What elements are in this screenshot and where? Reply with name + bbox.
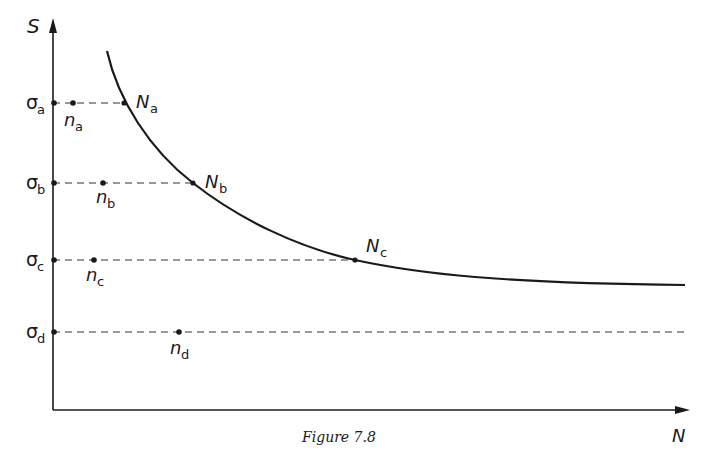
N-point-b: [190, 180, 195, 185]
n-point-a: [70, 100, 76, 106]
sigma-label-b: σ b: [26, 171, 45, 197]
sigma-label-d: σ d: [26, 320, 45, 346]
x-axis-arrow-icon: [675, 406, 690, 414]
svg-text:c: c: [380, 245, 387, 260]
N-point-c: [352, 257, 357, 262]
svg-text:N: N: [205, 171, 218, 192]
sn-curve: [107, 51, 685, 285]
N-point-a: [121, 100, 126, 105]
sigma-label-c: σ c: [26, 248, 44, 274]
svg-text:d: d: [37, 331, 45, 346]
svg-text:a: a: [150, 101, 158, 116]
y-axis-arrow-icon: [49, 18, 57, 33]
svg-text:b: b: [107, 196, 115, 211]
n-label-b: n b: [96, 186, 115, 211]
svg-text:a: a: [37, 102, 45, 117]
svg-text:n: n: [86, 264, 97, 285]
axis-point-a: [51, 100, 57, 106]
svg-text:d: d: [181, 347, 189, 362]
svg-text:n: n: [96, 186, 107, 207]
N-label-c: N c: [366, 235, 387, 260]
sigma-label-a: σ a: [26, 91, 45, 117]
svg-text:N: N: [136, 91, 149, 112]
n-label-c: n c: [86, 264, 104, 289]
x-axis-label: N: [672, 425, 685, 446]
n-label-d: n d: [170, 337, 189, 362]
y-axis-label: S: [27, 14, 40, 38]
svg-text:n: n: [170, 337, 181, 358]
axis-point-c: [51, 257, 57, 263]
svg-text:b: b: [219, 181, 227, 196]
svg-text:b: b: [37, 182, 45, 197]
N-label-a: N a: [136, 91, 158, 116]
n-point-d: [176, 329, 182, 335]
svg-text:a: a: [75, 119, 83, 134]
svg-text:c: c: [97, 274, 104, 289]
n-point-b: [100, 180, 106, 186]
axis-point-b: [51, 180, 57, 186]
sn-diagram: S N σ a σ b σ c σ d n a n b n: [0, 0, 701, 466]
svg-text:N: N: [366, 235, 379, 256]
n-label-a: n a: [64, 109, 83, 134]
svg-text:n: n: [64, 109, 75, 130]
svg-text:c: c: [37, 259, 44, 274]
figure-caption: Figure 7.8: [301, 429, 376, 445]
N-label-b: N b: [205, 171, 227, 196]
n-point-c: [91, 257, 97, 263]
axis-point-d: [51, 329, 57, 335]
